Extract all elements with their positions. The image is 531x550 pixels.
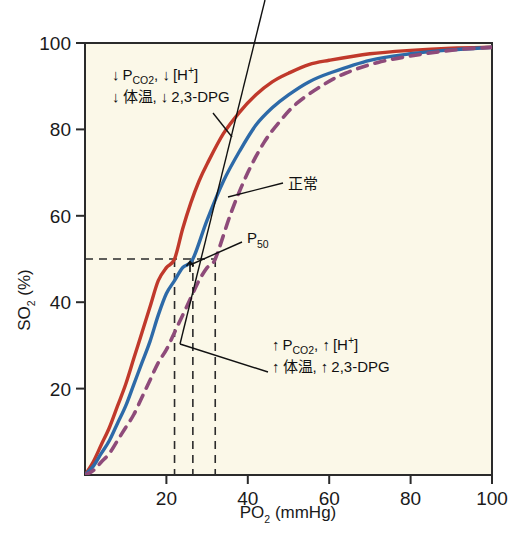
x-tick-label: 80 — [400, 488, 421, 509]
down-arrow-icon-2: ↓ — [162, 66, 170, 83]
svg-text:PO2 (mmHg): PO2 (mmHg) — [240, 503, 337, 525]
x-tick-label: 20 — [156, 488, 177, 509]
y-tick-label: 80 — [50, 119, 71, 140]
p50-label-sub: 50 — [257, 238, 269, 250]
dpg-label-1: 2,3-DPG — [171, 88, 229, 105]
comma-1: , — [154, 66, 162, 83]
oxygen-dissociation-figure: 20406080100 20406080100 " SO2 (%) PO — [0, 0, 531, 550]
y-axis-title-unit: (%) — [15, 269, 34, 300]
h-label-1: [H — [173, 66, 188, 83]
svg-text:SO2 (%): SO2 (%) — [15, 269, 37, 331]
dpg-label-2: 2,3-DPG — [331, 358, 389, 375]
svg-text:↓体温, ↓2,3-DPG: ↓体温, ↓2,3-DPG — [112, 88, 230, 105]
down-arrow-icon-3: ↓ — [112, 88, 120, 105]
normal-curve-label: 正常 — [288, 175, 318, 192]
y-tick-label: 40 — [50, 292, 71, 313]
down-arrow-icon-4: ↓ — [161, 88, 169, 105]
up-arrow-icon-3: ↑ — [272, 358, 280, 375]
p50-label-main: P — [247, 229, 257, 246]
y-axis-title: SO2 (%) — [15, 269, 37, 331]
h-label-2: [H — [333, 336, 348, 353]
x-axis-title: PO2 (mmHg) — [240, 503, 337, 525]
x-tick-label: 100 — [476, 488, 508, 509]
taion-label-2: 体温, — [283, 358, 321, 375]
x-axis-title-unit: (mmHg) — [270, 503, 336, 522]
pco2-sub-1: CO2 — [133, 74, 155, 86]
down-arrow-icon-1: ↓ — [112, 66, 120, 83]
up-arrow-icon-1: ↑ — [272, 336, 280, 353]
svg-text:↓PCO2, ↓[H+]: ↓PCO2, ↓[H+] — [112, 64, 198, 86]
taion-label-1: 体温, — [123, 88, 161, 105]
pco2-sub-2: CO2 — [293, 344, 315, 356]
up-arrow-icon-4: ↑ — [321, 358, 329, 375]
svg-text:↑体温, ↑2,3-DPG: ↑体温, ↑2,3-DPG — [272, 358, 390, 375]
comma-2: , — [314, 336, 322, 353]
y-axis-title-main: SO — [15, 306, 34, 331]
chart-canvas: 20406080100 20406080100 " SO2 (%) PO — [0, 0, 531, 550]
pco2-label-2: P — [283, 336, 293, 353]
y-tick-label: 100 — [39, 33, 71, 54]
y-tick-label: 20 — [50, 379, 71, 400]
pco2-label-1: P — [123, 66, 133, 83]
up-arrow-icon-2: ↑ — [322, 336, 330, 353]
svg-text:↑PCO2, ↑[H+]: ↑PCO2, ↑[H+] — [272, 334, 358, 356]
h-close-1: ] — [194, 66, 198, 83]
x-axis-title-main: PO — [240, 503, 265, 522]
y-tick-label: 60 — [50, 206, 71, 227]
h-close-2: ] — [354, 336, 358, 353]
